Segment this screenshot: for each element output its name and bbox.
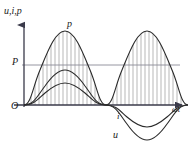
y-axis-label: u,i,p bbox=[4, 6, 22, 16]
origin-label: O bbox=[11, 101, 18, 111]
x-axis-label: ωt bbox=[172, 106, 180, 114]
power-curve bbox=[24, 31, 188, 105]
power-hatch-fill bbox=[27, 20, 185, 105]
waveform-figure: u,i,p ωt O P p i u bbox=[0, 0, 194, 151]
power-curve-label: p bbox=[67, 19, 72, 29]
average-power-label: P bbox=[12, 57, 18, 67]
current-curve-label: i bbox=[117, 112, 120, 121]
waveform-plot bbox=[0, 0, 194, 151]
voltage-curve-label: u bbox=[113, 130, 118, 140]
